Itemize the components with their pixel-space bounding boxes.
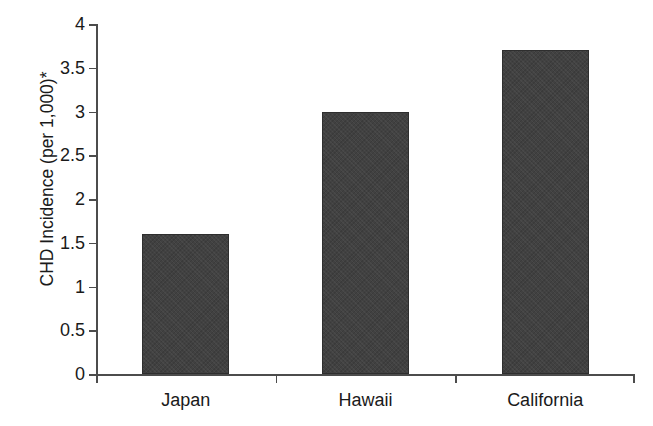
x-axis-category-label: Japan — [96, 390, 276, 411]
plot-area: 00.511.522.533.54 JapanHawaiiCalifornia — [96, 24, 635, 374]
y-axis-tick-mark — [89, 199, 96, 201]
y-axis-tick-mark — [89, 330, 96, 332]
y-axis-tick-mark — [89, 155, 96, 157]
y-axis-tick-mark — [89, 374, 96, 376]
y-axis-line — [96, 24, 98, 374]
bar-hawaii — [322, 112, 409, 375]
y-axis-tick-label: 3 — [75, 101, 85, 122]
y-axis-tick-mark — [89, 112, 96, 114]
bar-japan — [142, 234, 229, 374]
x-axis-tick-mark — [633, 374, 635, 383]
y-axis-tick-mark — [89, 68, 96, 70]
y-axis-tick-mark — [89, 243, 96, 245]
x-axis-tick-mark — [96, 374, 98, 383]
y-axis-tick-label: 3.5 — [60, 57, 85, 78]
x-axis-category-label: California — [455, 390, 635, 411]
y-axis-tick-label: 0.5 — [60, 320, 85, 341]
bar-california — [502, 50, 589, 374]
bar-chart: CHD Incidence (per 1,000)* 00.511.522.53… — [0, 0, 653, 426]
y-axis-tick-mark — [89, 287, 96, 289]
y-axis-tick-label: 1.5 — [60, 232, 85, 253]
y-axis-tick-label: 0 — [75, 364, 85, 385]
y-axis-tick-label: 2 — [75, 189, 85, 210]
x-axis-line — [96, 374, 635, 376]
y-axis-tick-mark — [89, 24, 96, 26]
y-axis-tick-label: 1 — [75, 276, 85, 297]
y-axis-tick-label: 4 — [75, 14, 85, 35]
x-axis-tick-mark — [276, 374, 278, 383]
y-axis-tick-label: 2.5 — [60, 145, 85, 166]
y-axis-title: CHD Incidence (per 1,000)* — [34, 0, 60, 366]
x-axis-category-label: Hawaii — [276, 390, 456, 411]
x-axis-tick-mark — [455, 374, 457, 383]
